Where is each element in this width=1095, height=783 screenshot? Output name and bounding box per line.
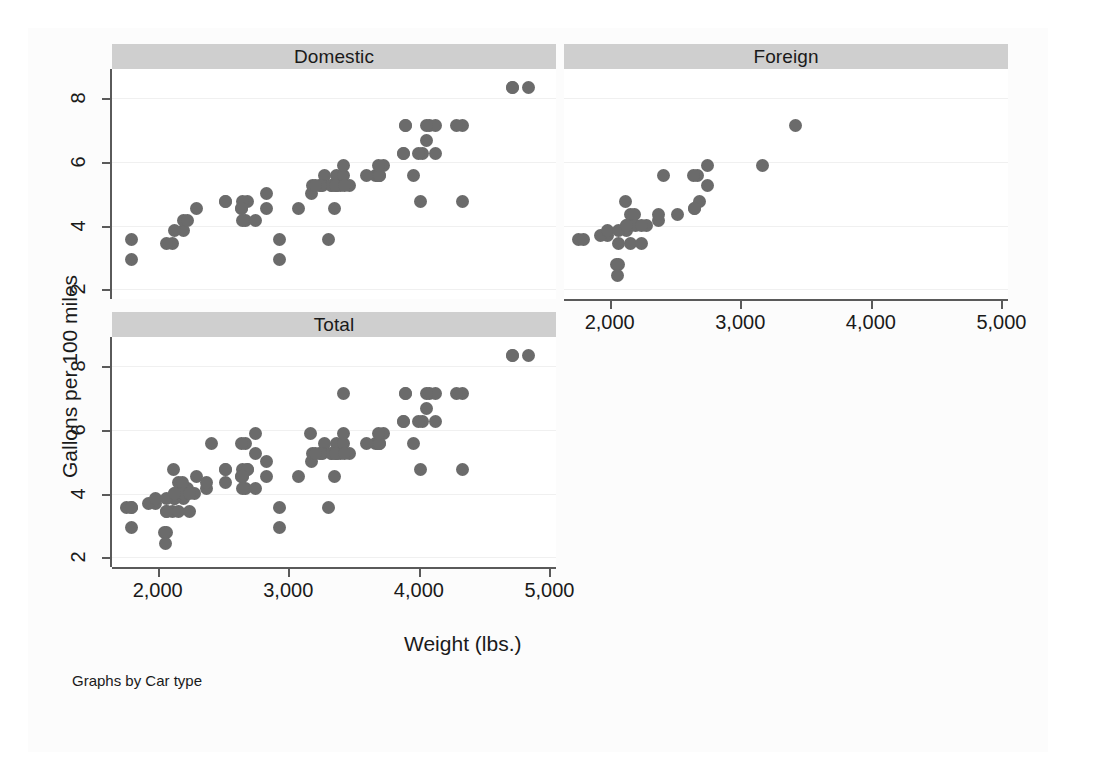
scatter-point — [183, 505, 196, 518]
scatter-point — [273, 521, 286, 534]
x-tick-4000 — [871, 301, 873, 309]
scatter-point — [420, 387, 433, 400]
scatter-point — [219, 476, 232, 489]
scatter-point — [414, 195, 427, 208]
y-tick-4 — [102, 494, 110, 496]
stata-graph-canvas: Gallons per 100 miles Weight (lbs.) Grap… — [0, 0, 1095, 783]
gridline-y-6 — [564, 162, 1008, 163]
x-tick-5000 — [1001, 301, 1003, 309]
scatter-point — [756, 159, 769, 172]
scatter-point — [309, 179, 322, 192]
y-tick-2 — [102, 289, 110, 291]
scatter-point — [249, 447, 262, 460]
y-tick-label: 8 — [68, 78, 88, 118]
scatter-point — [420, 119, 433, 132]
scatter-point — [701, 159, 714, 172]
scatter-point — [125, 501, 138, 514]
scatter-point — [671, 208, 684, 221]
scatter-point — [125, 521, 138, 534]
x-tick-label: 5,000 — [956, 311, 1046, 333]
scatter-point — [688, 202, 701, 215]
scatter-point — [429, 415, 442, 428]
scatter-point — [412, 415, 425, 428]
scatter-point — [219, 463, 232, 476]
y-tick-6 — [102, 430, 110, 432]
scatter-point — [260, 202, 273, 215]
scatter-point — [205, 437, 218, 450]
x-tick-3000 — [288, 569, 290, 577]
scatter-point — [219, 195, 232, 208]
scatter-point — [309, 447, 322, 460]
scatter-point — [420, 402, 433, 415]
scatter-point — [260, 187, 273, 200]
scatter-point — [577, 233, 590, 246]
scatter-point — [506, 349, 519, 362]
scatter-point — [407, 437, 420, 450]
scatter-point — [236, 214, 249, 227]
gridline-y-8 — [112, 366, 556, 367]
scatter-point — [397, 415, 410, 428]
scatter-point — [260, 470, 273, 483]
scatter-point — [337, 387, 350, 400]
y-tick-label: 6 — [68, 142, 88, 182]
scatter-point — [183, 487, 196, 500]
scatter-point — [273, 501, 286, 514]
scatter-point — [236, 482, 249, 495]
x-tick-2000 — [610, 301, 612, 309]
scatter-point — [789, 119, 802, 132]
plot-area-domestic — [112, 69, 556, 299]
scatter-point — [249, 214, 262, 227]
y-tick-8 — [102, 98, 110, 100]
scatter-point — [159, 537, 172, 550]
scatter-point — [611, 269, 624, 282]
gridline-y-8 — [564, 98, 1008, 99]
panel-total: Total — [112, 312, 556, 567]
scatter-point — [338, 447, 351, 460]
scatter-point — [635, 219, 648, 232]
scatter-point — [412, 147, 425, 160]
x-tick-label: 5,000 — [504, 579, 594, 601]
scatter-point — [190, 202, 203, 215]
scatter-point — [273, 253, 286, 266]
x-tick-label: 3,000 — [243, 579, 333, 601]
plot-area-foreign — [564, 69, 1008, 299]
scatter-point — [456, 195, 469, 208]
panel-foreign: Foreign — [564, 44, 1008, 299]
y-tick-label: 4 — [68, 206, 88, 246]
scatter-point — [701, 179, 714, 192]
gridline-y-2 — [564, 289, 1008, 290]
scatter-point — [249, 427, 262, 440]
scatter-point — [506, 81, 519, 94]
scatter-point — [635, 237, 648, 250]
scatter-point — [456, 463, 469, 476]
scatter-point — [372, 159, 385, 172]
y-tick-label: 4 — [68, 474, 88, 514]
scatter-point — [337, 159, 350, 172]
panel-domestic: Domestic — [112, 44, 556, 299]
scatter-point — [450, 119, 463, 132]
gridline-y-2 — [112, 289, 556, 290]
scatter-point — [292, 202, 305, 215]
x-tick-3000 — [740, 301, 742, 309]
scatter-point — [125, 253, 138, 266]
scatter-point — [200, 476, 213, 489]
plot-area-total — [112, 337, 556, 567]
scatter-point — [236, 470, 249, 483]
y-tick-6 — [102, 162, 110, 164]
gridline-y-6 — [112, 430, 556, 431]
scatter-point — [397, 147, 410, 160]
scatter-point — [522, 81, 535, 94]
x-tick-2000 — [158, 569, 160, 577]
gridline-y-6 — [112, 162, 556, 163]
scatter-point — [322, 233, 335, 246]
scatter-point — [167, 463, 180, 476]
scatter-point — [337, 427, 350, 440]
x-tick-label: 4,000 — [826, 311, 916, 333]
scatter-point — [328, 202, 341, 215]
scatter-point — [181, 214, 194, 227]
x-tick-5000 — [549, 569, 551, 577]
scatter-point — [338, 179, 351, 192]
x-axis-line — [112, 567, 556, 569]
scatter-point — [235, 437, 248, 450]
scatter-point — [687, 169, 700, 182]
